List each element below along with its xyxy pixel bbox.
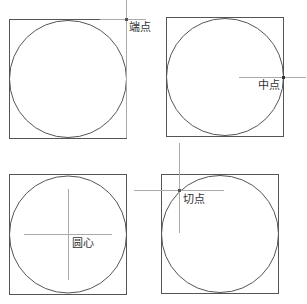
label-endpoint: 端点 bbox=[129, 22, 151, 33]
panel-center bbox=[10, 175, 127, 295]
label-midpoint: 中点 bbox=[258, 80, 280, 91]
snap-diagram bbox=[0, 0, 306, 304]
label-center: 圆心 bbox=[72, 238, 94, 249]
inscribed-circle bbox=[10, 21, 127, 138]
snap-marker bbox=[125, 18, 128, 21]
label-tangent: 切点 bbox=[183, 194, 205, 205]
snap-marker bbox=[178, 189, 181, 192]
panel-midpoint bbox=[167, 18, 307, 153]
panel-endpoint bbox=[10, 0, 147, 139]
panel-tangent bbox=[134, 152, 279, 294]
snap-marker bbox=[282, 76, 285, 79]
